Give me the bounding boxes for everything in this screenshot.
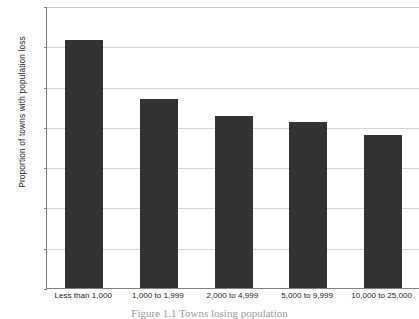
bar <box>215 116 253 288</box>
y-tick-mark <box>44 249 48 250</box>
figure-caption: Figure 1.1 Towns losing population <box>0 307 419 319</box>
y-tick-mark <box>44 208 48 209</box>
bar <box>65 40 103 288</box>
bar <box>140 99 178 288</box>
y-tick-mark <box>44 289 48 290</box>
figure-container: Proportion of towns with population loss… <box>0 0 419 319</box>
x-tick-label: 10,000 to 25,000 <box>337 292 419 300</box>
y-tick-mark <box>44 128 48 129</box>
y-tick-mark <box>44 168 48 169</box>
plot-area <box>46 7 419 289</box>
bar <box>289 122 327 288</box>
y-tick-mark <box>44 88 48 89</box>
y-tick-mark <box>44 47 48 48</box>
y-axis-title: Proportion of towns with population loss <box>17 0 27 237</box>
bar <box>364 135 402 288</box>
gridline <box>47 7 419 8</box>
y-tick-mark <box>44 7 48 8</box>
